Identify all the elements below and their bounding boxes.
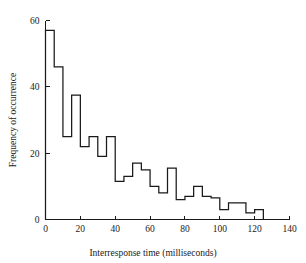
- x-tick-label: 140: [282, 224, 297, 234]
- histogram-figure: 020406080100120140 0204060 Interresponse…: [0, 0, 306, 263]
- x-tick-label: 60: [145, 224, 155, 234]
- y-tick-label: 40: [30, 82, 40, 92]
- x-tick-label: 40: [110, 224, 120, 234]
- x-tick-label: 80: [180, 224, 190, 234]
- histogram-outline: [46, 30, 264, 219]
- x-axis-ticks: 020406080100120140: [43, 216, 297, 234]
- y-tick-label: 20: [30, 149, 40, 159]
- y-tick-label: 0: [35, 215, 40, 225]
- y-axis-ticks: 0204060: [30, 16, 50, 225]
- y-tick-label: 60: [30, 16, 40, 26]
- x-axis-title: Interresponse time (milliseconds): [89, 248, 216, 259]
- x-tick-label: 100: [213, 224, 228, 234]
- y-axis-title: Frequency of occurrence: [8, 73, 18, 167]
- x-tick-label: 0: [43, 224, 48, 234]
- x-tick-label: 20: [76, 224, 86, 234]
- histogram-plot: 020406080100120140 0204060 Interresponse…: [0, 0, 306, 263]
- x-tick-label: 120: [248, 224, 263, 234]
